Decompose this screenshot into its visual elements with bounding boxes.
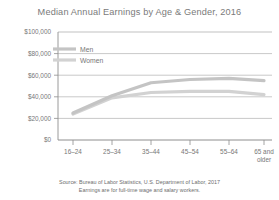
legend-label-men: Men (80, 46, 93, 53)
x-tick-label-25-34: 25–34 (103, 148, 121, 155)
y-tick-labels: $100,000 $80,000 $60,000 $40,000 $20,000… (24, 28, 51, 143)
x-tick-labels: 16–24 25–34 35–44 45–54 55–64 65 and old… (64, 148, 274, 163)
source-note: Source: Bureau of Labor Statistics, U.S.… (0, 178, 279, 194)
x-tick-label-16-24: 16–24 (64, 148, 82, 155)
legend-label-women: Women (80, 57, 104, 64)
y-tick-label-0: $0 (44, 136, 52, 143)
y-tick-label-20000: $20,000 (28, 115, 52, 122)
x-tick-label-65-older-line2: older (257, 156, 272, 163)
source-line-1: Source: Bureau of Labor Statistics, U.S.… (0, 178, 279, 186)
x-tick-label-45-54: 45–54 (181, 148, 199, 155)
x-tick-label-65-older-line1: 65 and (254, 148, 274, 155)
y-tick-label-60000: $60,000 (28, 72, 52, 79)
data-series (73, 78, 264, 114)
x-tick-label-35-44: 35–44 (142, 148, 160, 155)
y-tick-label-80000: $80,000 (28, 50, 52, 57)
y-tick-label-100000: $100,000 (24, 28, 51, 35)
line-chart-plot: $100,000 $80,000 $60,000 $40,000 $20,000… (0, 0, 279, 200)
chart-legend: Men Women (53, 46, 104, 64)
series-line-women (73, 91, 264, 114)
y-tick-label-40000: $40,000 (28, 93, 52, 100)
source-line-2: Earnings are for full-time wage and sala… (0, 186, 279, 194)
chart-figure: Median Annual Earnings by Age & Gender, … (0, 0, 279, 200)
x-axis (58, 140, 272, 145)
series-line-men (73, 78, 264, 113)
x-tick-label-55-64: 55–64 (220, 148, 238, 155)
